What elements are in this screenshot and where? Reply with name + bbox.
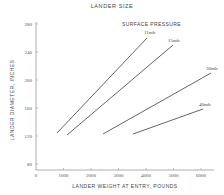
- series-label-40mb: 40mb: [199, 102, 211, 107]
- y-tick-label: 160: [25, 106, 33, 111]
- x-tick-label: 6000: [196, 173, 207, 178]
- series-40mb-line: [133, 109, 203, 134]
- x-tick-label: 2000: [86, 173, 97, 178]
- x-ticks: 0 1000 2000 3000 4000 5000 6000: [35, 168, 207, 178]
- x-tick-label: 5000: [169, 173, 180, 178]
- series-label-30mb: 30mb: [206, 66, 218, 71]
- y-tick-label: 80: [27, 162, 33, 167]
- series-lines: [57, 38, 211, 135]
- series-11mb-line: [57, 38, 147, 133]
- series-label-15mb: 15mb: [168, 38, 180, 43]
- x-tick-label: 0: [35, 173, 38, 178]
- x-tick-label: 1000: [59, 173, 70, 178]
- x-tick-label: 4000: [141, 173, 152, 178]
- series-15mb-line: [67, 45, 173, 135]
- y-tick-label: 200: [25, 78, 33, 83]
- legend-title: SURFACE PRESSURE: [122, 21, 181, 27]
- series-label-11mb: 11mb: [144, 30, 156, 35]
- y-tick-label: 280: [25, 22, 33, 27]
- series-30mb-line: [103, 73, 211, 134]
- x-tick-label: 3000: [114, 173, 125, 178]
- y-tick-label: 120: [25, 134, 33, 139]
- y-tick-label: 240: [25, 50, 33, 55]
- chart-plot: 280 240 200 160 120 80 0 1000 2000 3000 …: [0, 0, 224, 195]
